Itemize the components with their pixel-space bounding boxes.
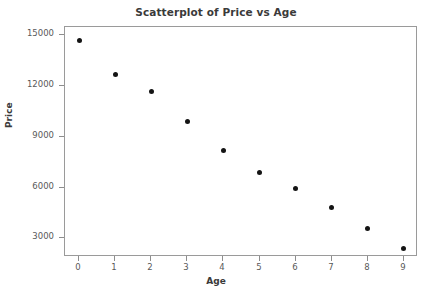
plot-frame bbox=[64, 26, 417, 256]
data-point bbox=[149, 89, 154, 94]
y-axis-tick bbox=[59, 136, 64, 137]
x-axis-tick bbox=[295, 256, 296, 261]
x-axis-tick-label: 1 bbox=[99, 262, 129, 272]
x-axis-tick-label: 3 bbox=[171, 262, 201, 272]
data-point bbox=[185, 119, 190, 124]
y-axis-title: Price bbox=[4, 102, 14, 128]
x-axis-tick-label: 8 bbox=[352, 262, 382, 272]
y-axis-tick bbox=[59, 85, 64, 86]
data-point bbox=[365, 226, 370, 231]
x-axis-tick-label: 4 bbox=[207, 262, 237, 272]
data-point bbox=[113, 72, 118, 77]
x-axis-tick-label: 7 bbox=[316, 262, 346, 272]
x-axis-tick bbox=[331, 256, 332, 261]
x-axis-tick bbox=[114, 256, 115, 261]
y-axis-tick-label: 6000 bbox=[0, 181, 54, 191]
plot-area bbox=[65, 27, 416, 255]
x-axis-title: Age bbox=[0, 276, 432, 286]
x-axis-tick bbox=[367, 256, 368, 261]
y-axis-tick bbox=[59, 34, 64, 35]
chart-title: Scatterplot of Price vs Age bbox=[0, 6, 432, 18]
data-point bbox=[329, 205, 334, 210]
data-point bbox=[257, 170, 262, 175]
x-axis-tick-label: 0 bbox=[63, 262, 93, 272]
y-axis-tick bbox=[59, 237, 64, 238]
y-axis-tick-label: 12000 bbox=[0, 79, 54, 89]
scatterplot-figure: Scatterplot of Price vs Age Price Age 30… bbox=[0, 0, 432, 294]
x-axis-tick bbox=[150, 256, 151, 261]
y-axis-tick-label: 15000 bbox=[0, 28, 54, 38]
x-axis-tick-label: 6 bbox=[280, 262, 310, 272]
x-axis-tick bbox=[186, 256, 187, 261]
y-axis-tick-label: 3000 bbox=[0, 231, 54, 241]
x-axis-tick bbox=[259, 256, 260, 261]
x-axis-tick bbox=[222, 256, 223, 261]
x-axis-tick-label: 5 bbox=[244, 262, 274, 272]
data-point bbox=[401, 246, 406, 251]
y-axis-tick-label: 9000 bbox=[0, 130, 54, 140]
data-point bbox=[221, 148, 226, 153]
x-axis-tick bbox=[403, 256, 404, 261]
x-axis-tick-label: 2 bbox=[135, 262, 165, 272]
data-point bbox=[293, 186, 298, 191]
y-axis-tick bbox=[59, 187, 64, 188]
x-axis-tick bbox=[78, 256, 79, 261]
x-axis-tick-label: 9 bbox=[388, 262, 418, 272]
data-point bbox=[77, 38, 82, 43]
